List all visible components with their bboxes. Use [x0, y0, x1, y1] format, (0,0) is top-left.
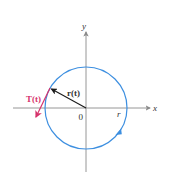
position-vector-label: r(t) — [67, 88, 80, 98]
diagram-canvas: y x 0 r r(t) T(t) — [0, 0, 172, 174]
y-axis-label: y — [81, 21, 86, 31]
x-axis-label: x — [152, 103, 157, 113]
tangent-vector-label: T(t) — [26, 94, 41, 104]
origin-label: 0 — [79, 112, 84, 122]
circle-direction-arrow-icon — [116, 129, 122, 136]
radius-label: r — [117, 109, 121, 119]
